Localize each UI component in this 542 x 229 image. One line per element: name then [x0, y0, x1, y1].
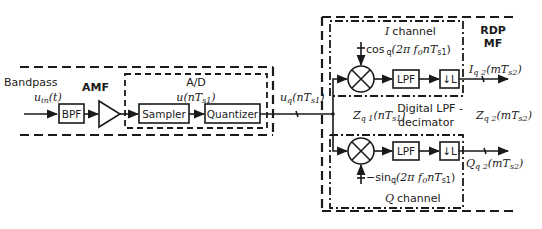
sampler-label: Sampler — [142, 108, 186, 120]
decimator-label: decimator — [398, 116, 454, 129]
mf-title: MF — [484, 37, 502, 50]
i-lo-label: cosq(2π f0nTs1) — [366, 43, 451, 57]
input-signal-label: uin(t) — [34, 91, 62, 105]
receiver-block-diagram: Bandpass uin(t) BPF AMF A/D u(nTs1) Samp… — [0, 0, 542, 229]
bus-tick — [296, 111, 298, 117]
q-decimator-label: ↓L — [442, 145, 457, 157]
i-lpf-label: LPF — [397, 73, 415, 85]
quantizer-label: Quantizer — [207, 108, 259, 120]
rdp-title: RDP — [480, 24, 506, 37]
amplifier-icon — [99, 101, 120, 127]
i-channel-title: Ichannel — [384, 25, 436, 38]
i-output-label: Iq 2(mTs2) — [468, 63, 522, 77]
amf-label: AMF — [82, 81, 109, 94]
q-branch-wire — [333, 114, 347, 151]
digital-lpf-label: Digital LPF - — [397, 102, 463, 115]
zq2-label: Zq 2(mTs2) — [475, 109, 532, 123]
uq-signal-label: uq(nTs1) — [280, 91, 324, 105]
q-lo-label: −sinq(2π f0nTs1) — [366, 171, 455, 185]
ad-signal-label: u(nTs1) — [176, 91, 215, 105]
q-output-label: Qq 2(mTs2) — [466, 157, 523, 171]
q-mixer-icon — [348, 138, 374, 164]
i-decimator-label: ↓L — [442, 73, 457, 85]
i-mixer-icon — [348, 66, 374, 92]
q-lpf-label: LPF — [397, 145, 415, 157]
bpf-label: BPF — [62, 108, 82, 120]
q-output-tick — [484, 148, 486, 154]
q-channel-title: Qchannel — [385, 192, 441, 205]
ad-label: A/D — [186, 76, 206, 89]
bandpass-label: Bandpass — [4, 76, 58, 89]
